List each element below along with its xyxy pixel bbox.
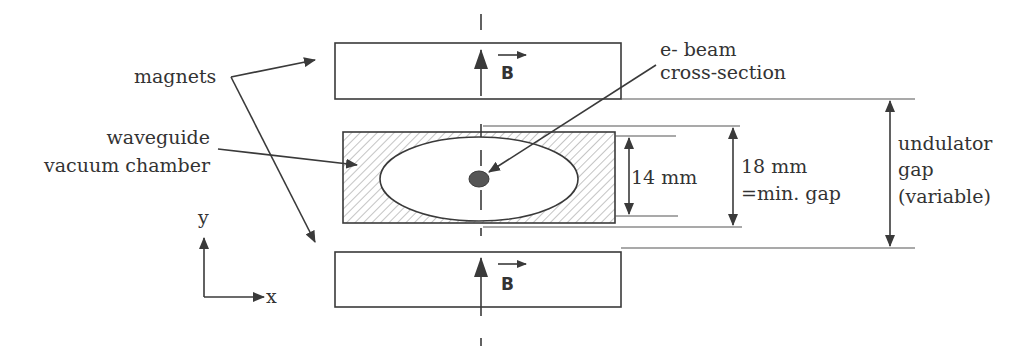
undulator-cross-section-diagram: B B [0, 0, 1029, 358]
undulator-gap-label-line1: undulator [898, 132, 993, 154]
undulator-gap-label-line2: gap [898, 158, 934, 180]
field-label-top: B [501, 63, 514, 83]
coordinate-axes: y x [197, 206, 277, 307]
electron-beam-dot [469, 171, 489, 187]
field-label-bottom: B [501, 274, 514, 294]
inner-height-label: 14 mm [631, 166, 697, 188]
ebeam-label-line1: e- beam [660, 38, 736, 60]
top-magnet: B [335, 43, 621, 99]
min-gap-label-line1: 18 mm [741, 155, 807, 177]
min-gap-label-line2: =min. gap [741, 182, 841, 204]
waveguide-label-line2: vacuum chamber [43, 154, 211, 176]
waveguide-label-line1: waveguide [107, 126, 210, 148]
undulator-gap-label-line3: (variable) [898, 185, 991, 207]
ebeam-label-line2: cross-section [660, 61, 786, 83]
axis-x-label: x [266, 285, 277, 307]
bottom-magnet: B [335, 252, 621, 316]
waveguide-vacuum-chamber [343, 132, 615, 223]
axis-y-label: y [197, 206, 209, 228]
magnets-label: magnets [134, 65, 216, 87]
